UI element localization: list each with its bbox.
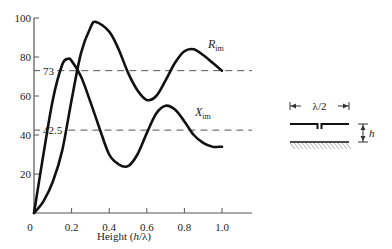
chart-figure: 2040608010000.20.40.60.81.0Height (h/λ) … xyxy=(0,0,392,249)
dipole-arm-right xyxy=(322,124,350,129)
y-tick-label: 100 xyxy=(15,12,32,24)
dipole-arm-left xyxy=(290,124,318,129)
series-labels: RimXim xyxy=(194,37,225,121)
y-tick-label: 60 xyxy=(20,90,32,102)
series-label: Xim xyxy=(194,105,212,121)
x-tick-label: 1.0 xyxy=(215,221,229,233)
x-axis-title: Height (h/λ) xyxy=(97,230,151,243)
series-label: Rim xyxy=(207,37,225,53)
dipole-schematic: λ/2h xyxy=(290,100,375,149)
x-tick-label: 0.8 xyxy=(178,221,192,233)
height-label: h xyxy=(369,127,375,139)
reference-line-label: 73 xyxy=(43,65,55,77)
y-tick-label: 40 xyxy=(20,129,32,141)
dimension-label: λ/2 xyxy=(313,100,327,112)
y-tick-label: 80 xyxy=(20,51,32,63)
series-curves xyxy=(34,22,222,213)
y-tick-label: 20 xyxy=(20,168,32,180)
x-tick-label: 0 xyxy=(27,221,33,233)
x-tick-label: 0.2 xyxy=(65,221,79,233)
series-line-r-im xyxy=(34,22,222,213)
